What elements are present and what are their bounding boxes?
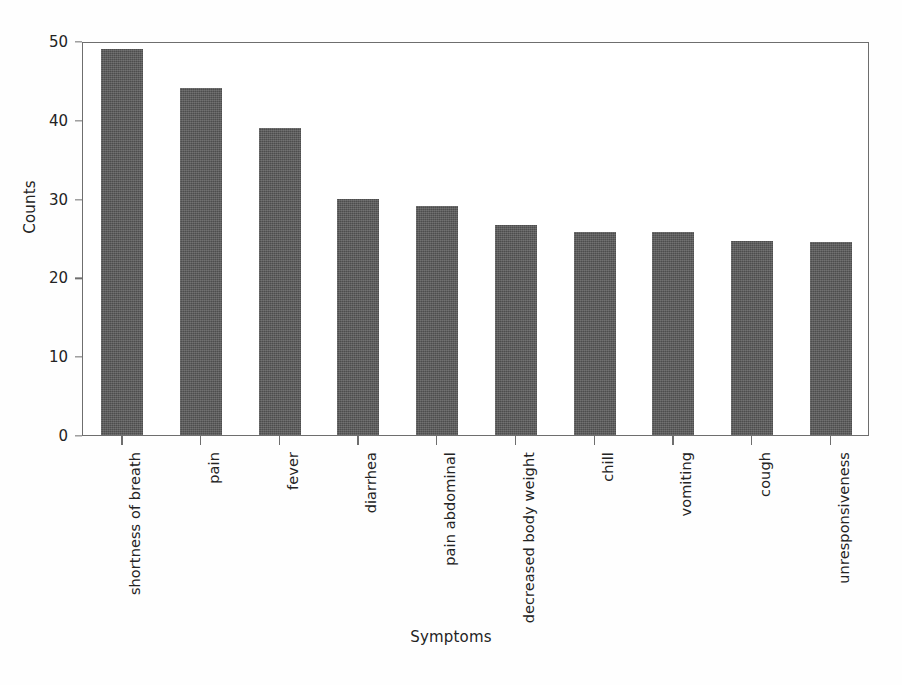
y-tick-mark — [75, 357, 82, 358]
x-tick-mark — [279, 436, 280, 445]
bar — [180, 88, 222, 435]
bar — [495, 225, 537, 435]
y-tick-label: 0 — [58, 427, 68, 445]
bar — [101, 49, 143, 435]
x-tick-label: shortness of breath — [127, 452, 143, 595]
x-tick-mark — [515, 436, 516, 445]
x-tick-mark — [357, 436, 358, 445]
y-tick-label: 50 — [49, 33, 68, 51]
x-tick-label: pain abdominal — [442, 452, 458, 566]
bar — [337, 199, 379, 435]
y-tick-mark — [75, 435, 82, 436]
y-tick-mark — [75, 41, 82, 42]
x-tick-mark — [672, 436, 673, 445]
y-tick-label: 30 — [49, 191, 68, 209]
plot-area — [82, 42, 869, 436]
x-tick-mark — [436, 436, 437, 445]
x-tick-mark — [121, 436, 122, 445]
y-tick-label: 10 — [49, 348, 68, 366]
x-tick-label: fever — [285, 452, 301, 490]
bar — [574, 232, 616, 435]
x-tick-label: pain — [206, 452, 222, 484]
x-tick-label: decreased body weight — [521, 452, 537, 623]
x-tick-mark — [830, 436, 831, 445]
bar — [810, 242, 852, 435]
x-tick-label: vomiting — [678, 452, 694, 517]
x-axis-label: Symptoms — [0, 628, 902, 646]
bar — [259, 128, 301, 435]
x-tick-label: chill — [600, 452, 616, 482]
bar — [652, 232, 694, 435]
x-tick-label: cough — [757, 452, 773, 497]
x-tick-mark — [200, 436, 201, 445]
bar — [731, 241, 773, 435]
bar — [416, 206, 458, 435]
y-tick-mark — [75, 278, 82, 279]
y-tick-mark — [75, 120, 82, 121]
y-tick-label: 40 — [49, 112, 68, 130]
y-tick-label: 20 — [49, 269, 68, 287]
y-tick-mark — [75, 199, 82, 200]
x-tick-label: diarrhea — [363, 452, 379, 513]
x-tick-mark — [594, 436, 595, 445]
bar-chart-figure: Counts 01020304050 shortness of breathpa… — [0, 0, 902, 685]
y-axis-label: Counts — [21, 147, 39, 267]
x-tick-label: unresponsiveness — [836, 452, 852, 584]
x-tick-mark — [751, 436, 752, 445]
